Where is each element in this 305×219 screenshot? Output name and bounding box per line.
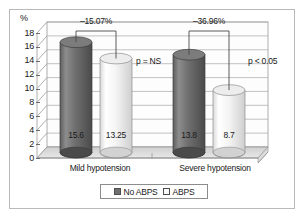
- bar-severe-abps: [213, 85, 245, 158]
- legend-item-abps: ABPS: [163, 187, 195, 197]
- y-tick-mark-16: [36, 47, 40, 48]
- chart-figure: % 18 16 14 12 10 8 6 4 2 0 –15.07% –36.9…: [0, 0, 305, 219]
- y-tick-16: 16: [17, 41, 34, 51]
- bar-value-mild-abps: 13.25: [100, 130, 132, 140]
- chart-legend: No ABPS ABPS: [100, 184, 208, 199]
- y-tick-mark-12: [36, 75, 40, 76]
- y-tick-mark-8: [36, 102, 40, 103]
- pvalue-label-mild: p = NS: [136, 56, 161, 66]
- x-category-label-mild: Mild hypotension: [50, 163, 150, 173]
- x-category-label-severe: Severe hypotension: [160, 163, 270, 173]
- bar-value-mild-no-abps: 15.6: [60, 130, 92, 140]
- delta-label-severe: –36.96%: [169, 16, 249, 26]
- bar-severe-no-abps: [173, 49, 205, 158]
- y-tick-10: 10: [17, 83, 34, 93]
- y-tick-mark-18: [36, 33, 40, 34]
- y-tick-2: 2: [17, 139, 34, 149]
- y-tick-18: 18: [17, 28, 34, 38]
- y-tick-mark-14: [36, 61, 40, 62]
- y-tick-0: 0: [17, 153, 34, 163]
- legend-label-no-abps: No ABPS: [124, 187, 158, 197]
- y-tick-6: 6: [17, 111, 34, 121]
- y-tick-12: 12: [17, 69, 34, 79]
- bar-value-severe-abps: 8.7: [213, 130, 245, 140]
- y-tick-14: 14: [17, 55, 34, 65]
- delta-label-mild: –15.07%: [56, 16, 136, 26]
- y-tick-mark-4: [36, 130, 40, 131]
- legend-swatch-icon-abps: [163, 188, 170, 195]
- y-tick-8: 8: [17, 97, 34, 107]
- y-tick-4: 4: [17, 125, 34, 135]
- y-tick-mark-0: [36, 158, 40, 159]
- y-axis-unit-label: %: [20, 13, 28, 23]
- y-tick-mark-10: [36, 89, 40, 90]
- legend-label-abps: ABPS: [173, 187, 195, 197]
- y-tick-mark-6: [36, 116, 40, 117]
- bar-value-severe-no-abps: 13.8: [173, 130, 205, 140]
- legend-item-no-abps: No ABPS: [114, 187, 158, 197]
- pvalue-label-severe: p < 0.05: [248, 56, 277, 66]
- y-tick-mark-2: [36, 144, 40, 145]
- bar-mild-abps: [100, 53, 132, 158]
- legend-swatch-icon-no-abps: [114, 188, 121, 195]
